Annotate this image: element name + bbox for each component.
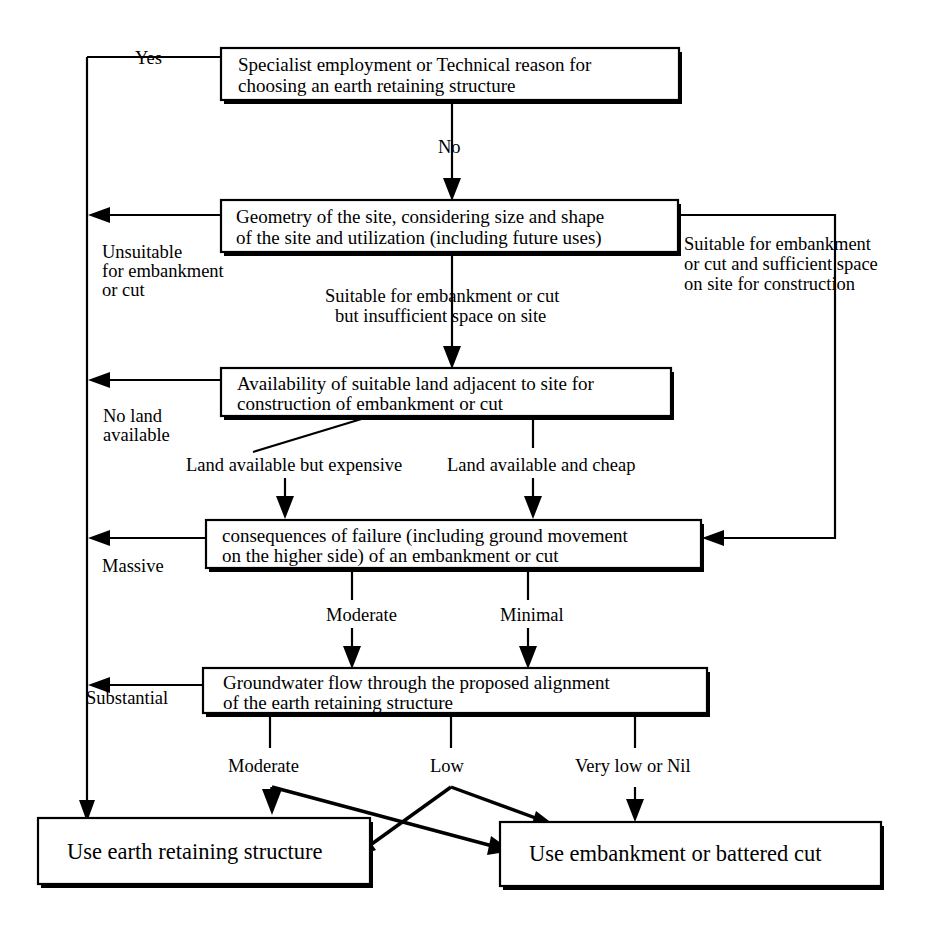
node-groundwater-line-2: of the earth retaining structure: [223, 692, 453, 713]
edge-label-low: Low: [430, 756, 465, 776]
edge-label-suitable-sufficient-line-3: on site for construction: [684, 274, 855, 294]
node-availability-line-2: construction of embankment or cut: [237, 393, 504, 414]
edge-groundwater-stems: [270, 713, 635, 748]
edge-label-no-land-line-1: No land: [103, 406, 163, 426]
node-availability-line-1: Availability of suitable land adjacent t…: [237, 373, 595, 394]
edge-moderate-to-retaining: [262, 787, 282, 815]
node-outcome-embankment-label: Use embankment or battered cut: [529, 841, 822, 866]
edge-label-suitable-sufficient-line-2: or cut and sufficient space: [684, 254, 878, 274]
node-outcome-embankment-battered-cut[interactable]: Use embankment or battered cut: [500, 822, 884, 890]
edge-label-land-cheap: Land available and cheap: [447, 455, 636, 475]
edge-label-unsuitable-line-2: for embankment: [102, 261, 225, 281]
edge-label-unsuitable-line-1: Unsuitable: [102, 242, 182, 262]
edge-label-moderate-water: Moderate: [228, 756, 299, 776]
edge-label-minimal: Minimal: [500, 605, 564, 625]
node-geometry-of-site[interactable]: Geometry of the site, considering size a…: [221, 200, 681, 256]
node-groundwater-line-1: Groundwater flow through the proposed al…: [223, 672, 610, 693]
edge-label-moderate-failure: Moderate: [326, 605, 397, 625]
node-consequences-line-1: consequences of failure (including groun…: [222, 525, 628, 547]
node-geometry-line-2: of the site and utilization (including f…: [236, 227, 602, 249]
edge-verylow-to-embankment: [626, 787, 644, 822]
edge-label-suitable-insufficient-line-2: but insufficient space on site: [335, 306, 546, 326]
edge-label-no: No: [438, 137, 461, 157]
node-outcome-retaining-label: Use earth retaining structure: [67, 839, 323, 864]
flowchart-container: Specialist employment or Technical reaso…: [0, 0, 944, 945]
edge-consequences-massive: [88, 530, 205, 546]
node-groundwater-flow[interactable]: Groundwater flow through the proposed al…: [203, 668, 710, 717]
edge-label-land-expensive: Land available but expensive: [186, 455, 402, 475]
edge-label-unsuitable-line-3: or cut: [102, 280, 145, 300]
edge-label-yes: Yes: [135, 48, 162, 68]
node-consequences-line-2: on the higher side) of an embankment or …: [222, 545, 559, 567]
node-specialist-line-2: choosing an earth retaining structure: [238, 75, 516, 96]
edge-label-substantial: Substantial: [86, 688, 168, 708]
node-land-availability[interactable]: Availability of suitable land adjacent t…: [221, 368, 674, 420]
flowchart-diagram: Specialist employment or Technical reaso…: [0, 0, 944, 945]
node-specialist-employment[interactable]: Specialist employment or Technical reaso…: [221, 48, 682, 104]
node-consequences-of-failure[interactable]: consequences of failure (including groun…: [206, 520, 704, 572]
edge-availability-no-land: [88, 372, 220, 388]
edge-label-massive: Massive: [102, 556, 164, 576]
edge-geometry-unsuitable: [88, 207, 220, 223]
node-outcome-earth-retaining-structure[interactable]: Use earth retaining structure: [38, 818, 373, 888]
node-specialist-line-1: Specialist employment or Technical reaso…: [238, 54, 592, 75]
node-geometry-line-1: Geometry of the site, considering size a…: [236, 206, 604, 227]
edge-label-no-land-line-2: available: [103, 425, 170, 445]
edge-label-suitable-sufficient-line-1: Suitable for embankment: [684, 234, 872, 254]
edge-label-suitable-insufficient-line-1: Suitable for embankment or cut: [325, 286, 560, 306]
edge-label-very-low-nil: Very low or Nil: [575, 756, 691, 776]
